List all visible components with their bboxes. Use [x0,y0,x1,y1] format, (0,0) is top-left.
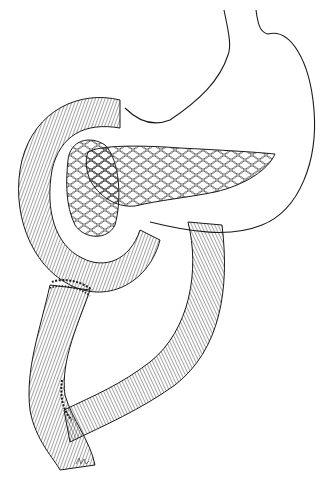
descending-limb [29,285,95,470]
anatomy-illustration [0,0,331,494]
pancreas [86,146,275,206]
illustration-canvas: Anatomical illustration: stomach, pancre… [0,0,331,494]
